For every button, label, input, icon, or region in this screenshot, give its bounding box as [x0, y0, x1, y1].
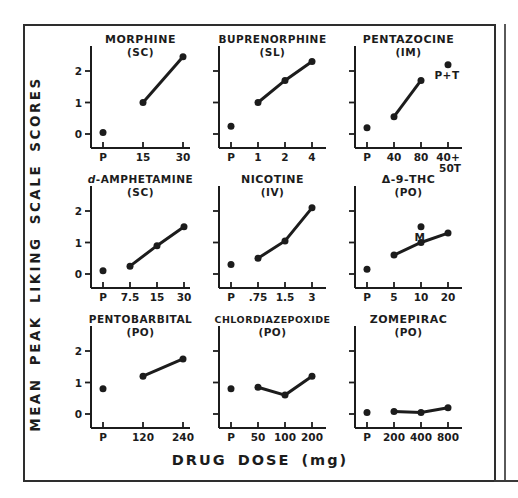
- y-tick-label: 0: [75, 408, 82, 420]
- dose-response-line: [394, 80, 421, 116]
- x-tick-label: 100: [274, 431, 296, 443]
- x-tick-label: 1: [254, 151, 261, 163]
- x-tick-label: 400: [410, 431, 432, 443]
- x-tick-label: 800: [437, 431, 459, 443]
- subplot-chlordiazepoxide: P50100200CHLORDIAZEPOXIDE(PO): [194, 310, 330, 456]
- subplot-grid: 012P1530MORPHINE(SC)P124BUPRENORPHINE(SL…: [58, 30, 468, 460]
- y-axis-label: MEAN PEAK LIKING SCALE SCORES: [27, 34, 45, 474]
- x-tick-label: 50: [251, 431, 266, 443]
- data-point: [282, 392, 289, 399]
- route-label: (SL): [260, 46, 286, 58]
- subplot-title: d-AMPHETAMINE(SC): [88, 173, 193, 198]
- x-tick-label: 40: [387, 151, 402, 163]
- x-tick-label: P: [99, 291, 107, 303]
- x-tick-label: P: [99, 151, 107, 163]
- data-point: [418, 409, 425, 416]
- y-tick-label: 2: [75, 65, 82, 77]
- subplot-morphine: 012P1530MORPHINE(SC): [58, 30, 194, 176]
- annotated-point: [418, 223, 425, 230]
- y-tick-label: 2: [75, 345, 82, 357]
- figure: MEAN PEAK LIKING SCALE SCORES 012P1530MO…: [0, 0, 518, 498]
- y-tick-label: 0: [75, 268, 82, 280]
- axes: [213, 186, 326, 288]
- drug-name-label: BUPRENORPHINE: [218, 33, 326, 45]
- x-tick-label: 30: [176, 151, 191, 163]
- route-label: (PO): [126, 326, 154, 338]
- drug-name-label: ZOMEPIRAC: [370, 313, 448, 326]
- data-point: [418, 77, 425, 84]
- data-point: [180, 355, 187, 362]
- x-tick-label: P: [227, 151, 235, 163]
- x-tick-label: 15: [136, 151, 151, 163]
- x-tick-label: P: [227, 291, 235, 303]
- route-label: (SC): [127, 46, 154, 58]
- data-point: [282, 77, 289, 84]
- subplot-title: PENTAZOCINE(IM): [363, 33, 455, 58]
- subplot-d-amphetamine: 012P7.51530d-AMPHETAMINE(SC): [58, 170, 194, 316]
- y-tick-label: 0: [75, 128, 82, 140]
- subplot-title: CHLORDIAZEPOXIDE(PO): [214, 314, 330, 338]
- tick-labels: P200400800: [363, 431, 459, 443]
- subplot-9-thc: P51020Δ-9-THC(PO)M: [330, 170, 466, 316]
- data-point: [309, 58, 316, 65]
- axes: [85, 326, 190, 428]
- data-point: [255, 384, 262, 391]
- route-label: (PO): [394, 326, 422, 338]
- tick-labels: P124: [227, 151, 316, 163]
- subplot-nicotine: P.751.53NICOTINE(IV): [194, 170, 330, 316]
- annotation-label: M: [415, 231, 426, 243]
- x-tick-label: P: [363, 151, 371, 163]
- y-tick-label: 1: [75, 97, 82, 109]
- placebo-point: [364, 124, 371, 131]
- data-point: [127, 263, 134, 270]
- border-bottom-extension: [494, 480, 518, 482]
- drug-name-label: PENTAZOCINE: [363, 33, 455, 46]
- x-tick-label: P: [363, 291, 371, 303]
- subplot-title: Δ-9-THC(PO): [382, 173, 436, 198]
- data-point: [445, 230, 452, 237]
- drug-name-label: d-AMPHETAMINE: [88, 173, 193, 185]
- data-point: [140, 99, 147, 106]
- data-point: [282, 237, 289, 244]
- data-point: [255, 255, 262, 262]
- drug-name-label: Δ-9-THC: [382, 173, 436, 186]
- data-point: [391, 408, 398, 415]
- tick-labels: P50100200: [227, 431, 323, 443]
- data-point: [309, 204, 316, 211]
- subplot-title: MORPHINE(SC): [105, 33, 176, 58]
- route-label: (PO): [394, 186, 422, 198]
- x-tick-label: 240: [172, 431, 194, 443]
- placebo-point: [364, 266, 371, 273]
- route-label: (PO): [258, 326, 286, 338]
- x-tick-label: 20: [441, 291, 456, 303]
- x-tick-label: 120: [132, 431, 154, 443]
- placebo-point: [100, 267, 107, 274]
- subplot-title: NICOTINE(IV): [241, 173, 304, 198]
- placebo-point: [228, 385, 235, 392]
- x-tick-label: 15: [150, 291, 165, 303]
- y-tick-label: 1: [75, 377, 82, 389]
- drug-name-label: PENTOBARBITAL: [89, 313, 193, 325]
- subplot-title: BUPRENORPHINE(SL): [218, 33, 326, 58]
- data-point: [140, 373, 147, 380]
- tick-labels: P51020: [363, 291, 455, 303]
- x-tick-label: 1.5: [276, 291, 295, 303]
- route-label: (IM): [396, 46, 422, 58]
- x-tick-label: 4: [308, 151, 315, 163]
- data-point: [180, 53, 187, 60]
- x-tick-label: 3: [308, 291, 315, 303]
- annotated-point: [445, 61, 452, 68]
- x-tick-label: 80: [414, 151, 429, 163]
- axes: [349, 46, 462, 148]
- x-tick-label: 30: [177, 291, 192, 303]
- x-tick-label: 200: [301, 431, 323, 443]
- x-tick-label: 2: [281, 151, 288, 163]
- y-tick-label: 2: [75, 205, 82, 217]
- x-axis-label: DRUG DOSE (mg): [40, 452, 480, 468]
- x-tick-label: 7.5: [121, 291, 140, 303]
- placebo-point: [228, 123, 235, 130]
- dose-response-line: [143, 359, 183, 376]
- data-point: [309, 373, 316, 380]
- x-tick-label: 10: [414, 291, 429, 303]
- x-tick-label: 5: [390, 291, 397, 303]
